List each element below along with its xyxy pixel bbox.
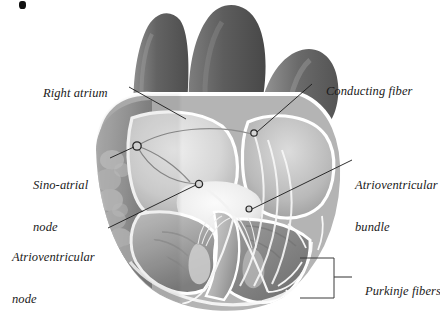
label-conducting-fiber: Conducting fiber xyxy=(313,70,413,112)
heart-conduction-figure: Right atrium Sino-atrial node Atrioventr… xyxy=(0,0,440,322)
scan-speck-artifact xyxy=(19,1,26,9)
av-node-marker xyxy=(195,180,202,187)
av-bundle-marker xyxy=(246,206,252,212)
label-atrioventricular-node: Atrioventricular node xyxy=(12,222,95,322)
heart-body-group xyxy=(95,94,342,321)
label-atrioventricular-bundle: Atrioventricular bundle xyxy=(355,150,438,262)
label-purkinje-fibers: Purkinje fibers xyxy=(352,270,440,312)
global-shadow xyxy=(96,94,180,316)
conducting-fiber-marker xyxy=(251,130,257,136)
label-right-atrium: Right atrium xyxy=(30,72,108,114)
